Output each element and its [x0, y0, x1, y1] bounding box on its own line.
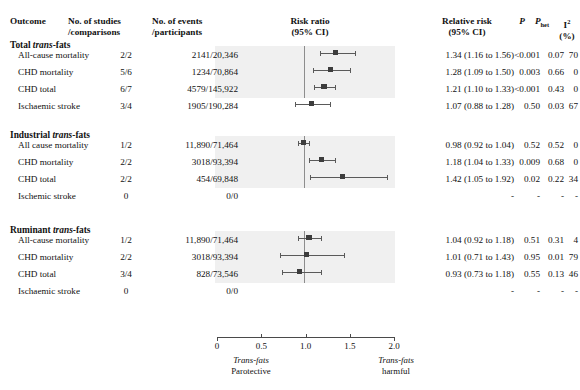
row-relative-risk: 0.98 (0.92 to 1.04) — [414, 140, 514, 157]
column-header-studies-line2: /comparisons — [68, 27, 148, 38]
confidence-interval-line — [310, 177, 387, 178]
axis-caption-left-line2: Parotective — [231, 366, 271, 376]
row-studies: 3/4 — [108, 269, 144, 286]
ci-cap-upper — [355, 51, 356, 56]
row-studies: 1/2 — [108, 140, 144, 157]
plot-panel-group-1 — [215, 46, 395, 98]
row-p-value: 0.95 — [508, 252, 540, 269]
group-title-text: Ruminant — [10, 225, 53, 235]
row-events: 11,890/71,464 — [146, 140, 238, 157]
axis-caption-protective: Trans-fats Parotective — [205, 355, 297, 377]
row-events: 0/0 — [146, 286, 238, 303]
row-i2: 34 — [560, 174, 578, 191]
row-p-value: 0.50 — [508, 101, 540, 118]
column-header-i2-line1: I2 — [556, 16, 578, 31]
group-title-industrial: Industrial trans-fats — [10, 130, 90, 140]
ci-cap-upper — [321, 270, 322, 275]
row-studies: 3/4 — [108, 101, 144, 118]
ci-cap-upper — [335, 158, 336, 163]
row-p-value: <0.001 — [508, 50, 540, 67]
row-i2: 67 — [560, 101, 578, 118]
row-studies: 6/7 — [108, 84, 144, 101]
group-title-tail: -fats — [72, 130, 90, 140]
row-studies: 5/6 — [108, 67, 144, 84]
point-estimate-marker — [304, 252, 310, 258]
column-header-rr-line2: (95% CI) — [424, 27, 510, 38]
axis-caption-right-line2: harmful — [382, 366, 410, 376]
row-studies: 2/2 — [108, 157, 144, 174]
ci-cap-lower — [298, 236, 299, 241]
column-header-risk-line1: Risk ratio — [250, 16, 370, 27]
row-relative-risk: 1.07 (0.88 to 1.28) — [414, 101, 514, 118]
ci-cap-lower — [280, 253, 281, 258]
group-title-ruminant: Ruminant trans-fats — [10, 225, 91, 235]
row-i2: 0 — [560, 140, 578, 157]
row-relative-risk: - — [414, 191, 514, 208]
confidence-interval-line — [280, 255, 344, 256]
row-i2: 0 — [560, 84, 578, 101]
ci-cap-upper — [335, 85, 336, 90]
row-outcome: All cause mortality — [18, 140, 110, 157]
group-title-text: Industrial — [10, 130, 52, 140]
ci-cap-lower — [282, 270, 283, 275]
group-title-italic: trans — [53, 225, 73, 235]
point-estimate-marker — [301, 140, 307, 146]
column-header-rr-line1: Relative risk — [424, 16, 510, 27]
row-relative-risk: 1.04 (0.92 to 1.18) — [414, 235, 514, 252]
column-header-relative-risk: Relative risk (95% CI) — [424, 16, 510, 38]
group-title-italic: trans — [52, 130, 72, 140]
row-p-value: 0.003 — [508, 67, 540, 84]
row-i2: 70 — [560, 50, 578, 67]
row-p-value: 0.02 — [508, 174, 540, 191]
column-header-events-line1: No. of events — [152, 16, 238, 27]
row-events: 454/69,848 — [146, 174, 238, 191]
point-estimate-marker — [340, 174, 346, 180]
row-studies: 1/2 — [108, 235, 144, 252]
ci-cap-lower — [320, 51, 321, 56]
ci-cap-lower — [309, 158, 310, 163]
row-outcome: All-cause mortality — [18, 235, 110, 252]
ci-cap-lower — [314, 85, 315, 90]
row-outcome: CHD total — [18, 269, 110, 286]
row-events: 3018/93,394 — [146, 252, 238, 269]
column-header-events-line2: /participants — [152, 27, 238, 38]
point-estimate-marker — [328, 67, 334, 73]
axis-tick-label: 1.0 — [291, 341, 321, 351]
axis-caption-right-line1: Trans-fats — [378, 355, 414, 365]
row-outcome: CHD total — [18, 84, 110, 101]
axis-tick-label: 1.5 — [335, 341, 365, 351]
column-header-events: No. of events /participants — [152, 16, 238, 38]
axis-tick — [350, 334, 351, 337]
ci-cap-upper — [321, 236, 322, 241]
row-p-value: 0.52 — [508, 140, 540, 157]
row-events: 0/0 — [146, 191, 238, 208]
point-estimate-marker — [309, 101, 315, 107]
p-het-sub: het — [541, 21, 550, 28]
ci-cap-lower — [310, 175, 311, 180]
row-events: 828/73,546 — [146, 269, 238, 286]
group-title-total: Total trans-fats — [10, 40, 70, 50]
row-relative-risk: 0.93 (0.73 to 1.18) — [414, 269, 514, 286]
row-p-value: - — [508, 191, 540, 208]
axis-caption-left-line1: Trans-fats — [233, 355, 269, 365]
row-i2: 46 — [560, 269, 578, 286]
row-events: 3018/93,394 — [146, 157, 238, 174]
column-header-i2: I2 (%) — [556, 16, 578, 42]
row-outcome: CHD mortality — [18, 252, 110, 269]
axis-tick — [261, 334, 262, 337]
group-title-italic: trans — [33, 40, 53, 50]
row-events: 1905/190,284 — [146, 101, 238, 118]
point-estimate-marker — [319, 157, 325, 163]
ci-cap-lower — [313, 68, 314, 73]
row-relative-risk: 1.01 (0.71 to 1.43) — [414, 252, 514, 269]
row-events: 11,890/71,464 — [146, 235, 238, 252]
forest-plot-figure: Outcome No. of studies /comparisons No. … — [0, 0, 580, 390]
column-header-p-het: Phet — [528, 16, 556, 30]
column-header-i2-line2: (%) — [556, 31, 578, 42]
row-relative-risk: 1.21 (1.10 to 1.33) — [414, 84, 514, 101]
column-header-outcome: Outcome — [10, 16, 46, 27]
column-header-risk-ratio: Risk ratio (95% CI) — [250, 16, 370, 38]
point-estimate-marker — [333, 50, 339, 56]
row-i2: 0 — [560, 157, 578, 174]
row-relative-risk: 1.42 (1.05 to 1.92) — [414, 174, 514, 191]
